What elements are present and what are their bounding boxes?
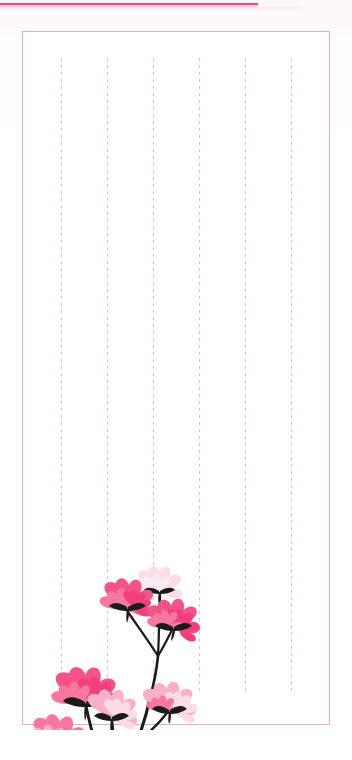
cosmos-flower-illustration: [24, 540, 214, 730]
top-accent-rule-fade: [0, 7, 300, 11]
bloom-upper-right: [145, 596, 204, 643]
bloom-mid-right-light: [142, 679, 202, 725]
bloom-mid-center-pale: [88, 689, 141, 730]
stationery-page: [0, 0, 352, 760]
bloom-lower-left: [24, 712, 88, 730]
